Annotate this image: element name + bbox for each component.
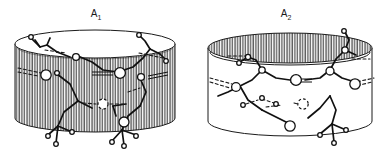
atom-A2-3 (285, 121, 295, 131)
atom-A1-6 (55, 71, 60, 76)
atom-A2-11 (241, 103, 246, 108)
panel-label-A1-sub: 1 (97, 14, 101, 21)
atom-A2-2 (350, 79, 360, 89)
atom-A1-1 (41, 70, 51, 80)
atom-A1-14 (134, 134, 139, 139)
panel-label-A2: A2 (281, 8, 292, 21)
atom-A1-2 (115, 68, 126, 79)
atom-A1-12 (110, 140, 115, 145)
atom-A1-10 (54, 142, 59, 147)
atom-A2-10 (342, 29, 347, 34)
atom-A1-11 (70, 130, 75, 135)
atom-A2-12 (260, 96, 265, 101)
atom-A2-15 (332, 141, 337, 146)
cylinder-top-face-A1 (15, 30, 175, 58)
atom-A2-4 (232, 83, 241, 92)
atom-A1-13 (122, 144, 127, 149)
atom-A2-5 (326, 67, 334, 75)
atom-A1-9 (46, 134, 51, 139)
atom-A2-16 (344, 128, 349, 133)
atom-A2-7 (342, 47, 348, 53)
figure-canvas: A1 (0, 0, 386, 158)
atom-A2-1 (291, 75, 302, 86)
atom-A1-4 (73, 54, 80, 61)
atom-A1-7 (29, 35, 34, 40)
bond-tripod-A1-right-3 (122, 130, 124, 145)
atom-A2-6 (259, 67, 265, 73)
atom-A2-8 (245, 54, 250, 59)
panel-A2: A2 (208, 8, 374, 145)
atom-A1-8 (137, 33, 142, 38)
panel-label-A1: A1 (91, 8, 102, 21)
atom-A2-14 (318, 133, 323, 138)
panel-label-A2-sub: 2 (287, 14, 291, 21)
atom-A1-3 (119, 117, 129, 127)
atom-A1-15 (164, 59, 169, 64)
panel-A1: A1 (15, 8, 175, 148)
atom-A2-9 (237, 61, 242, 66)
atom-A2-dashed (298, 99, 308, 109)
atom-A1-5 (138, 74, 145, 81)
atom-A2-13 (274, 102, 279, 107)
atom-A1-dashed (98, 99, 108, 109)
figure-root: A1 (0, 0, 386, 158)
